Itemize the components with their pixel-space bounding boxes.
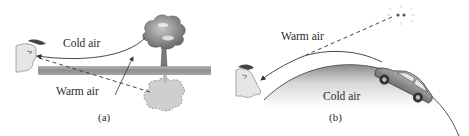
panel-a-inferior-mirage: Cold air Warm air (a) (0, 0, 234, 136)
panel-a-illustration (0, 0, 234, 136)
cold-air-label: Cold air (323, 91, 360, 103)
observer-head (236, 64, 261, 97)
car-headlights (387, 5, 415, 25)
warm-air-pointer-arrow (115, 57, 133, 95)
warm-air-label: Warm air (56, 86, 99, 98)
warm-air-label: Warm air (281, 31, 324, 43)
cold-air-label: Cold air (63, 38, 100, 50)
ground-strip (38, 66, 211, 75)
panel-b-illustration (234, 0, 469, 136)
panel-b-superior-mirage: Warm air Cold air (b) (234, 0, 469, 136)
panel-caption: (b) (329, 112, 342, 123)
panel-caption: (a) (98, 112, 110, 123)
tree (143, 15, 185, 49)
